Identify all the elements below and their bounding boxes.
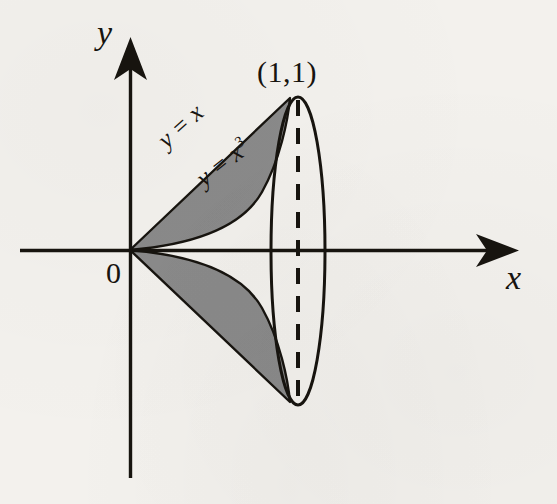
origin-label: 0 — [106, 256, 121, 290]
x-axis-label: x — [506, 259, 521, 297]
math-figure: y x 0 (1,1) y = x y = x3 — [0, 0, 557, 504]
y-axis-label: y — [97, 14, 112, 52]
shaded-region-lower — [130, 250, 290, 402]
intersection-point-label: (1,1) — [257, 55, 317, 89]
